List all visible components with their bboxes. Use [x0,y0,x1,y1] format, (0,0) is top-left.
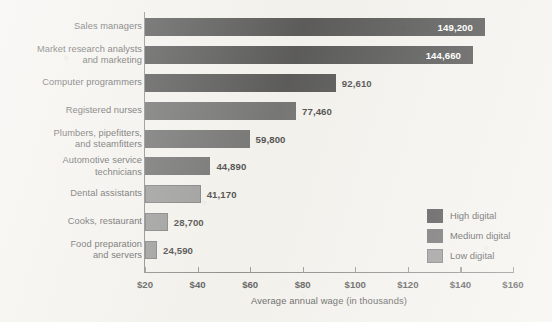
chart-row: Dental assistants41,170 [0,180,552,208]
bar-value-label: 28,700 [174,217,204,228]
x-axis-line [144,272,514,273]
x-tick-label: $40 [190,279,206,290]
x-tick [250,267,251,273]
x-tick [198,267,199,273]
category-label: Dental assistants [70,189,142,200]
bar-value-label: 24,590 [163,245,193,256]
chart-row: Registered nurses77,460 [0,97,552,125]
bar-high [145,18,485,36]
bar-value-label: 41,170 [207,189,237,200]
category-label: Plumbers, pipefitters, and steamfitters [54,127,142,149]
x-tick-label: $120 [397,279,418,290]
bar-value-label: 149,200 [438,21,473,32]
category-label: Market research analysts and marketing [37,44,142,66]
chart-row: Automotive service technicians44,890 [0,153,552,181]
x-tick-label: $60 [242,279,258,290]
bar-value-label: 144,660 [426,49,461,60]
legend-swatch-medium [427,229,443,243]
plot-area: Sales managers149,200Market research ana… [0,0,552,322]
legend-label: Medium digital [450,230,510,241]
bar-medium [145,157,210,175]
chart-row: Market research analysts and marketing14… [0,41,552,69]
bar-low [145,213,168,231]
bar-medium [145,130,250,148]
legend-item-medium: Medium digital [427,226,510,245]
bar-medium [145,102,296,120]
bar-low [145,241,157,259]
category-label: Registered nurses [66,105,142,116]
bar-high [145,74,336,92]
category-label: Food preparation and servers [70,239,142,261]
bar-high [145,46,473,64]
bar-value-label: 44,890 [216,161,246,172]
wage-bar-chart: Sales managers149,200Market research ana… [0,0,552,322]
legend-item-high: High digital [427,206,510,225]
x-axis-title: Average annual wage (in thousands) [144,295,514,306]
y-axis-line [144,12,145,272]
category-label: Cooks, restaurant [68,217,142,228]
x-tick [408,267,409,273]
x-tick-label: $100 [345,279,366,290]
legend-swatch-high [427,209,443,223]
bar-low [145,185,201,203]
x-tick-label: $20 [137,279,153,290]
category-label: Computer programmers [42,77,142,88]
x-tick [355,267,356,273]
x-tick [513,267,514,273]
x-tick [303,267,304,273]
category-label: Automotive service technicians [63,155,142,177]
x-tick-label: $80 [295,279,311,290]
x-tick-label: $160 [502,279,523,290]
bar-value-label: 92,610 [342,77,372,88]
bar-value-label: 77,460 [302,105,332,116]
category-label: Sales managers [74,21,142,32]
x-tick-label: $140 [450,279,471,290]
chart-row: Plumbers, pipefitters, and steamfitters5… [0,125,552,153]
legend-label: Low digital [450,250,494,261]
bar-value-label: 59,800 [256,133,286,144]
chart-row: Sales managers149,200 [0,13,552,41]
x-tick [460,267,461,273]
legend-label: High digital [450,210,496,221]
chart-legend: High digitalMedium digitalLow digital [427,206,510,266]
chart-row: Computer programmers92,610 [0,69,552,97]
legend-item-low: Low digital [427,246,510,265]
x-tick [145,267,146,273]
legend-swatch-low [427,249,443,263]
